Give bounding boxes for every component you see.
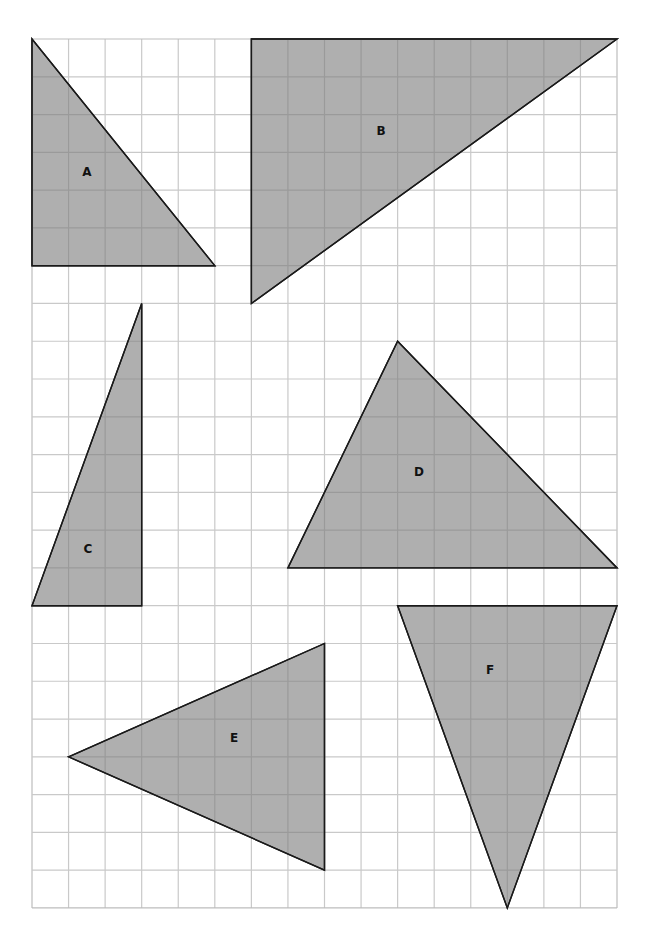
triangle-label: C <box>84 542 93 556</box>
triangle-label: A <box>82 165 92 179</box>
triangle-label: B <box>376 124 385 138</box>
triangle-label: F <box>486 663 494 677</box>
triangle-label: E <box>230 731 238 745</box>
triangles-on-grid-diagram: ABCDEF <box>0 0 650 942</box>
triangle-label: D <box>414 465 424 479</box>
diagram-canvas: ABCDEF <box>0 0 650 942</box>
